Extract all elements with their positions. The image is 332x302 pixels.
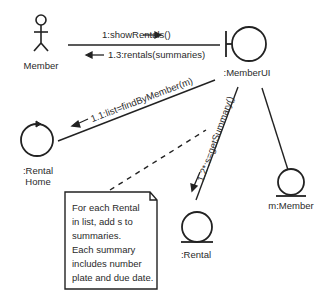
memberui-label: :MemberUI xyxy=(224,67,271,78)
member-actor-icon xyxy=(34,15,48,51)
mmember-label: m:Member xyxy=(268,200,313,211)
rental-label: :Rental xyxy=(181,249,211,260)
note-line: For each Rental xyxy=(72,201,156,215)
control-icon xyxy=(21,121,53,156)
arrow-down-left-icon xyxy=(72,119,88,127)
note-line: in list, add s to xyxy=(72,215,156,229)
note-line: includes number xyxy=(72,257,156,271)
rentalhome-label-1: :Rental xyxy=(23,165,53,176)
message-1-3-label: 1.3:rentals(summaries) xyxy=(108,49,205,60)
arrow-left-icon xyxy=(86,52,104,58)
entity-icon xyxy=(181,212,213,242)
note-anchor-line xyxy=(110,130,206,190)
boundary-icon xyxy=(226,27,266,61)
diagram-canvas xyxy=(0,0,332,302)
link-memberui-rentalhome xyxy=(58,80,215,141)
message-1-label: 1:showRentals() xyxy=(102,29,171,40)
rentalhome-label-2: Home xyxy=(25,176,50,187)
note-line: plate and due date. xyxy=(72,271,156,285)
note-line: summaries. xyxy=(72,229,156,243)
note-line: Each summary xyxy=(72,243,156,257)
member-actor-label: Member xyxy=(24,60,59,71)
note-text: For each Rental in list, add s to summar… xyxy=(72,201,156,285)
link-memberui-mmember xyxy=(262,88,288,170)
entity-icon xyxy=(276,169,306,196)
